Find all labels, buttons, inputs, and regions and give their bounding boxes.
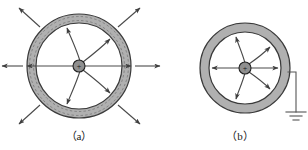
panel-a-charge-sign: + xyxy=(77,62,82,71)
panel-b-point-charge: + xyxy=(239,62,251,74)
panel-a-caption: （a） xyxy=(66,130,93,142)
figure-svg: + （a） + xyxy=(0,0,308,150)
physics-figure-container: + （a） + xyxy=(0,0,308,150)
panel-b-charge-sign: + xyxy=(243,64,248,73)
panel-a-point-charge: + xyxy=(73,60,85,72)
panel-b-caption: （b） xyxy=(226,130,254,142)
